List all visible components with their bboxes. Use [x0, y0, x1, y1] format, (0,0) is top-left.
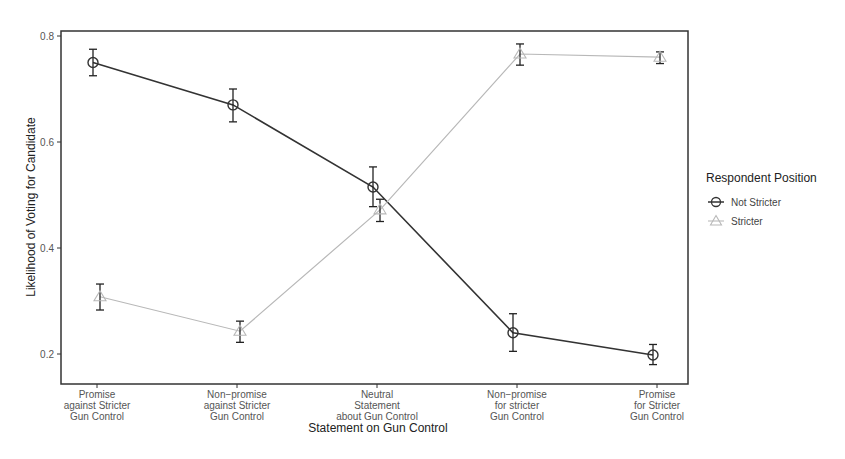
- y-tick-label: 0.6: [40, 137, 54, 148]
- legend-item-not-stricter: Not Stricter: [708, 197, 782, 208]
- legend: Respondent Position Not Stricter Stricte…: [706, 171, 817, 227]
- legend-label-stricter: Stricter: [731, 216, 763, 227]
- x-tick-label: Non−promiseagainst StricterGun Control: [204, 389, 271, 422]
- legend-label-not-stricter: Not Stricter: [731, 197, 782, 208]
- x-tick-label: Promiseagainst StricterGun Control: [64, 389, 131, 422]
- y-tick-label: 0.8: [40, 31, 54, 42]
- x-tick-label: Non−promisefor stricterGun Control: [487, 389, 547, 422]
- legend-title: Respondent Position: [706, 171, 817, 185]
- plot-panel: [61, 31, 688, 384]
- y-tick-label: 0.2: [40, 349, 54, 360]
- line-chart: 0.20.40.60.8 Promiseagainst StricterGun …: [0, 0, 845, 459]
- x-axis: Promiseagainst StricterGun ControlNon−pr…: [64, 384, 684, 422]
- legend-item-stricter: Stricter: [708, 216, 763, 228]
- x-tick-label: Promisefor StricterGun Control: [630, 389, 684, 422]
- x-tick-label: NeutralStatementabout Gun Control: [336, 389, 418, 422]
- x-axis-title: Statement on Gun Control: [308, 421, 447, 435]
- y-tick-label: 0.4: [40, 243, 54, 254]
- triangle-marker-icon: [711, 216, 722, 226]
- y-axis-title: Likelihood of Voting for Candidate: [24, 117, 38, 297]
- y-axis: 0.20.40.60.8: [40, 31, 61, 360]
